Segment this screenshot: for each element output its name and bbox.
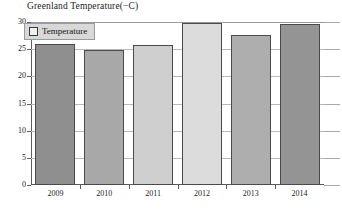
right-tick	[324, 76, 340, 77]
chart-title: Greenland Temperature(−C)	[27, 1, 138, 11]
x-tick-mark	[226, 185, 227, 189]
y-axis-tick-label: 25	[6, 45, 26, 53]
x-axis-tick-label-2010: 2010	[80, 190, 129, 198]
x-tick-mark	[129, 185, 130, 189]
bar-2013	[231, 35, 271, 185]
bar-2011	[133, 45, 173, 185]
right-tick	[324, 104, 340, 105]
bar-2014	[280, 24, 320, 185]
right-tick	[324, 185, 340, 186]
y-axis-tick-label: 5	[6, 154, 26, 162]
y-axis-tick-label: 20	[6, 72, 26, 80]
legend: Temperature	[24, 23, 95, 40]
y-axis-tick-label: 10	[6, 127, 26, 135]
right-tick	[324, 158, 340, 159]
x-axis-tick-label-2009: 2009	[31, 190, 80, 198]
y-tick-mark	[27, 76, 31, 77]
y-tick-mark	[27, 104, 31, 105]
y-tick-mark	[27, 49, 31, 50]
x-tick-mark	[80, 185, 81, 189]
x-tick-mark	[178, 185, 179, 189]
x-axis-tick-label-2011: 2011	[129, 190, 178, 198]
x-axis-tick-label-2012: 2012	[178, 190, 227, 198]
bar-chart: Greenland Temperature(−C) 051015202530 2…	[0, 0, 342, 211]
y-tick-mark	[27, 131, 31, 132]
y-axis-tick-label: 30	[6, 18, 26, 26]
bar-2012	[182, 23, 222, 185]
right-tick	[324, 22, 340, 23]
x-tick-mark	[275, 185, 276, 189]
y-axis-tick-label: 0	[6, 181, 26, 189]
y-tick-mark	[27, 158, 31, 159]
y-axis-tick-label: 15	[6, 100, 26, 108]
legend-label-temperature: Temperature	[42, 27, 87, 36]
right-tick	[324, 49, 340, 50]
bar-2010	[84, 50, 124, 185]
legend-swatch-temperature	[29, 27, 38, 36]
y-tick-mark	[27, 185, 31, 186]
x-axis-tick-label-2014: 2014	[275, 190, 324, 198]
right-tick	[324, 131, 340, 132]
x-axis-tick-label-2013: 2013	[226, 190, 275, 198]
bar-2009	[35, 44, 75, 185]
